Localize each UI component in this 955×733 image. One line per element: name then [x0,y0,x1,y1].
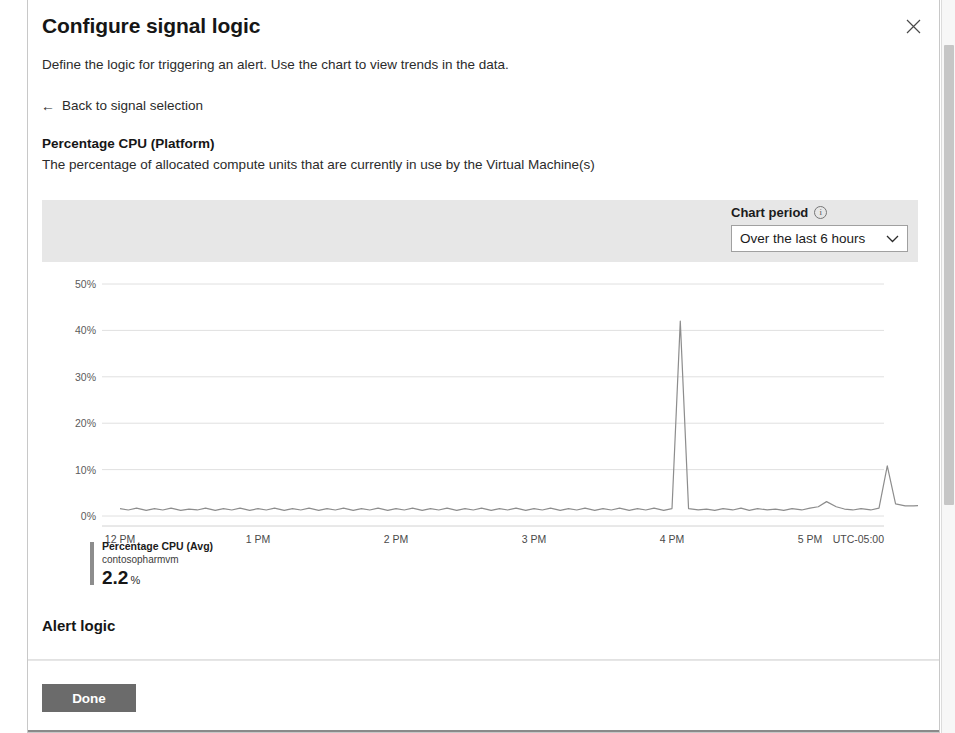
y-axis-tick-label: 40% [75,324,96,336]
left-arrow-icon: ← [41,99,55,113]
chart-legend: Percentage CPU (Avg) contosopharmvm 2.2% [90,540,213,591]
chart-period-value: Over the last 6 hours [740,231,865,246]
legend-resource-name: contosopharmvm [102,553,213,566]
y-axis-tick-label: 0% [81,510,96,522]
chart-period-control: Chart period i Over the last 6 hours [731,205,908,252]
x-axis-tick-label: 4 PM [660,533,685,545]
signal-name: Percentage CPU (Platform) [42,136,215,151]
chart-gridlines [102,284,884,526]
timezone-label: UTC-05:00 [833,533,885,545]
chart-toolbar: Chart period i Over the last 6 hours [42,200,918,262]
chart-y-axis-labels: 0%10%20%30%40%50% [75,278,96,522]
chart-series [120,321,918,510]
legend-metric-name: Percentage CPU (Avg) [102,540,213,553]
chart-x-axis-labels: 12 PM1 PM2 PM3 PM4 PM5 PMUTC-05:00 [105,533,884,545]
done-button[interactable]: Done [42,684,136,712]
info-icon[interactable]: i [814,206,827,219]
chart-period-label: Chart period [731,205,808,220]
back-link-label: Back to signal selection [62,98,203,113]
close-icon[interactable] [897,10,929,42]
back-to-signal-selection-link[interactable]: ← Back to signal selection [41,98,203,113]
x-axis-tick-label: 5 PM [798,533,823,545]
legend-color-swatch [90,542,94,585]
chart-period-label-row: Chart period i [731,205,908,220]
y-axis-tick-label: 50% [75,278,96,290]
y-axis-tick-label: 20% [75,417,96,429]
alert-logic-heading: Alert logic [42,617,115,634]
signal-description: The percentage of allocated compute unit… [42,157,595,172]
chevron-down-icon [886,233,899,245]
vertical-scrollbar-thumb[interactable] [944,45,954,505]
y-axis-tick-label: 10% [75,464,96,476]
vertical-scrollbar-track[interactable] [941,0,955,733]
configure-signal-logic-blade: Configure signal logic Define the logic … [27,0,940,733]
legend-value-number: 2.2 [102,567,128,588]
footer-bottom-rule [28,730,939,732]
legend-value-unit: % [130,574,140,586]
page-subtitle: Define the logic for triggering an alert… [42,57,509,72]
page-title: Configure signal logic [42,14,260,38]
metric-chart-card: Chart period i Over the last 6 hours 0%1… [42,200,918,610]
y-axis-tick-label: 30% [75,371,96,383]
series-line [120,321,918,510]
x-axis-tick-label: 2 PM [384,533,409,545]
legend-current-value: 2.2% [102,567,213,591]
chart-period-dropdown[interactable]: Over the last 6 hours [731,225,908,252]
blade-footer: Done [28,660,939,732]
x-axis-tick-label: 1 PM [246,533,271,545]
legend-text-block: Percentage CPU (Avg) contosopharmvm 2.2% [102,540,213,591]
x-axis-tick-label: 3 PM [522,533,547,545]
